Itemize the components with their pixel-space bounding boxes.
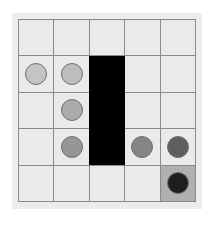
game-piece[interactable] <box>61 63 83 85</box>
board-cell[interactable] <box>54 93 89 129</box>
board-cell[interactable] <box>161 129 196 165</box>
board-cell[interactable] <box>161 20 196 56</box>
board-cell[interactable] <box>19 56 54 92</box>
board-cell[interactable] <box>125 20 160 56</box>
wall-block <box>89 56 125 166</box>
board-cell[interactable] <box>161 56 196 92</box>
game-piece[interactable] <box>25 63 47 85</box>
board-cell[interactable] <box>90 166 125 202</box>
board-cell[interactable] <box>19 129 54 165</box>
game-piece[interactable] <box>131 136 153 158</box>
board-cell[interactable] <box>54 56 89 92</box>
goal-cell[interactable] <box>161 166 196 202</box>
board-cell[interactable] <box>54 20 89 56</box>
game-piece[interactable] <box>61 99 83 121</box>
board-cell[interactable] <box>125 129 160 165</box>
board-cell[interactable] <box>125 56 160 92</box>
board-cell[interactable] <box>125 166 160 202</box>
board-cell[interactable] <box>54 129 89 165</box>
game-piece[interactable] <box>167 172 189 194</box>
board-cell[interactable] <box>19 20 54 56</box>
board-cell[interactable] <box>161 93 196 129</box>
board-cell[interactable] <box>54 166 89 202</box>
board-cell[interactable] <box>90 20 125 56</box>
game-piece[interactable] <box>61 136 83 158</box>
board-cell[interactable] <box>125 93 160 129</box>
board-cell[interactable] <box>19 166 54 202</box>
game-piece[interactable] <box>167 136 189 158</box>
board-cell[interactable] <box>19 93 54 129</box>
